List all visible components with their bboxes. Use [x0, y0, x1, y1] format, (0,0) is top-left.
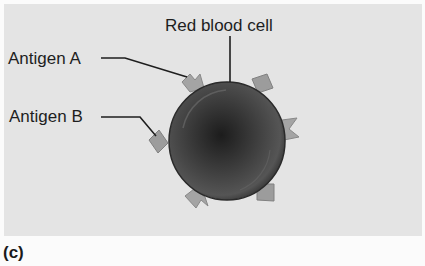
panel-label: (c)	[3, 244, 24, 261]
label-red-blood-cell: Red blood cell	[165, 17, 273, 34]
label-antigen-a: Antigen A	[8, 50, 81, 67]
leader-line-antigen-b	[101, 117, 156, 136]
antigen-b-left	[149, 130, 168, 153]
label-antigen-b: Antigen B	[9, 108, 83, 125]
diagram-canvas	[0, 0, 425, 266]
red-blood-cell	[169, 82, 285, 200]
leader-line-antigen-a	[101, 58, 187, 77]
